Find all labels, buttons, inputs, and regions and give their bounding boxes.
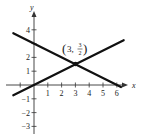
y-tick-label: −3 [21, 122, 30, 131]
intersection-point [73, 62, 77, 66]
point-y-numerator: 3 [79, 42, 82, 48]
x-tick-label: 6 [115, 89, 119, 98]
point-x-coord: 3, [67, 44, 74, 54]
y-tick-label: −1 [21, 95, 30, 104]
point-y-denominator: 2 [79, 50, 82, 56]
y-axis-label: y [29, 3, 34, 12]
x-tick-label: 5 [101, 89, 105, 98]
x-axis-label: x [131, 81, 136, 90]
y-tick-label: −2 [21, 109, 30, 118]
intersection-label: ( 3, 3 2 ) [62, 41, 87, 56]
x-axis-arrow-icon [122, 83, 128, 88]
y-tick-label: 1 [26, 67, 30, 76]
y-tick-label: 2 [26, 53, 30, 62]
paren-close: ) [83, 41, 87, 56]
x-tick-label: 2 [60, 89, 64, 98]
y-tick-label: 4 [26, 26, 30, 35]
x-tick-label: 4 [87, 89, 91, 98]
x-tick-label: 3 [73, 89, 77, 98]
series-lines [13, 33, 123, 95]
x-tick-label: 1 [46, 89, 50, 98]
paren-open: ( [62, 41, 66, 56]
chart: 123456 −3−2−1124 x y ( 3, 3 2 ) [0, 0, 141, 140]
x-tick-labels: 123456 [46, 89, 119, 98]
